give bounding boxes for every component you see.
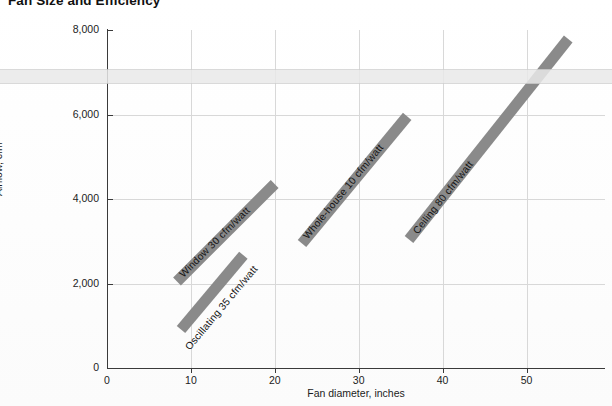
- x-axis-line: [107, 368, 605, 369]
- x-axis-title: Fan diameter, inches: [307, 387, 404, 399]
- x-tick-mark: [275, 368, 276, 373]
- data-band-label: Window 30 cfm/watt: [178, 205, 253, 280]
- x-tick-mark: [359, 368, 360, 373]
- y-tick-mark: [107, 368, 113, 369]
- gridline-horizontal: [107, 199, 605, 200]
- x-tick-mark: [443, 368, 444, 373]
- x-tick-label: 30: [353, 374, 365, 386]
- x-tick-label: 20: [269, 374, 281, 386]
- y-tick-label: 2,000: [73, 277, 99, 289]
- y-tick-mark: [107, 115, 113, 116]
- scan-artifact-band: [0, 70, 612, 83]
- y-tick-mark: [107, 199, 113, 200]
- scan-artifact-line-top: [0, 69, 612, 70]
- y-tick-mark: [107, 30, 113, 31]
- x-tick-label: 10: [185, 374, 197, 386]
- x-tick-label: 50: [521, 374, 533, 386]
- x-tick-mark: [191, 368, 192, 373]
- data-band-label: Whole-house 10 cfm/watt: [301, 142, 386, 241]
- y-tick-label: 8,000: [73, 23, 99, 35]
- chart-title: Fan Size and Efficiency: [8, 0, 160, 8]
- chart-container: Fan Size and Efficiency 02,0004,0006,000…: [0, 0, 612, 406]
- y-tick-label: 4,000: [73, 192, 99, 204]
- y-tick-mark: [107, 284, 113, 285]
- y-tick-label: 0: [93, 361, 99, 373]
- x-tick-label: 40: [437, 374, 449, 386]
- y-tick-label: 6,000: [73, 108, 99, 120]
- y-axis-title: Airflow, cfm: [0, 142, 4, 196]
- x-tick-mark: [527, 368, 528, 373]
- scan-artifact-line-bottom: [0, 83, 612, 84]
- gridline-horizontal: [107, 115, 605, 116]
- x-tick-label: 0: [104, 374, 110, 386]
